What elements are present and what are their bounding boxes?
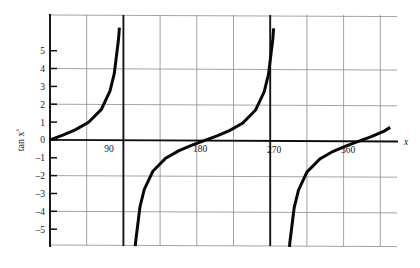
tangent-graph-figure: 5 4 3 2 1 0 –1 –2 –3 –4 –5 90 180 270 36… (0, 0, 420, 268)
yticklabel-1: 1 (40, 118, 45, 128)
y-axis-label-degree: ° (15, 128, 22, 131)
y-axis-label-base: tan x (15, 131, 26, 151)
yticklabel-m5: –5 (35, 225, 46, 235)
yticklabel-m2: –2 (35, 171, 46, 181)
yticklabel-m1: –1 (35, 153, 46, 163)
yticklabel-3: 3 (40, 82, 45, 92)
x-axis-label: x (403, 137, 409, 147)
yticklabel-2: 2 (40, 100, 45, 110)
xticklabel-90: 90 (104, 144, 114, 154)
yticklabel-4: 4 (40, 64, 45, 74)
yticklabel-5: 5 (40, 46, 45, 56)
yticklabel-0: 0 (40, 135, 45, 145)
tangent-graph-svg: 5 4 3 2 1 0 –1 –2 –3 –4 –5 90 180 270 36… (0, 0, 420, 268)
xticklabel-270: 270 (267, 145, 282, 155)
y-axis-label: tan x° (15, 128, 27, 151)
yticklabel-m4: –4 (35, 207, 46, 217)
yticklabel-m3: –3 (35, 189, 46, 199)
